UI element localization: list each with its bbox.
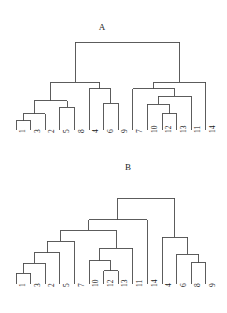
leaf-label-2: 2: [48, 129, 56, 133]
dendrogram-panel-a: A 1325846971012131114: [0, 0, 227, 156]
leaf-label-5: 5: [63, 129, 71, 133]
leaf-label-10: 10: [151, 126, 159, 134]
leaf-label-3: 3: [34, 129, 42, 133]
leaf-label-4: 4: [92, 129, 100, 133]
leaf-label-8: 8: [78, 129, 86, 133]
leaf-label-10: 10: [92, 280, 100, 288]
dendrogram-link: [75, 42, 179, 82]
dendrogram-link: [51, 82, 100, 100]
leaf-label-1: 1: [19, 283, 27, 287]
dendrogram-link: [60, 107, 75, 130]
leaf-label-7: 7: [136, 129, 144, 133]
leaf-label-13: 13: [180, 126, 188, 134]
leaf-label-9: 9: [121, 129, 129, 133]
dendrogram-link: [23, 114, 45, 131]
leaf-label-9: 9: [209, 283, 217, 287]
leaf-label-4: 4: [165, 283, 173, 287]
leaf-label-3: 3: [34, 283, 42, 287]
dendrogram-link: [162, 237, 188, 284]
panel-b-plot: [0, 156, 227, 313]
leaf-label-12: 12: [107, 280, 115, 288]
dendrogram-link: [118, 198, 175, 237]
dendrogram-panel-b: B 1325710121311144689: [0, 156, 227, 313]
dendrogram-link: [104, 103, 119, 130]
dendrogram-link: [89, 89, 111, 130]
leaf-label-6: 6: [180, 283, 188, 287]
leaf-label-14: 14: [151, 280, 159, 288]
leaf-label-5: 5: [63, 283, 71, 287]
dendrogram-link: [47, 241, 74, 284]
leaf-label-11: 11: [136, 280, 144, 287]
dendrogram-link: [177, 254, 199, 284]
leaf-label-13: 13: [121, 280, 129, 288]
leaf-label-1: 1: [19, 129, 27, 133]
leaf-label-8: 8: [194, 283, 202, 287]
dendrogram-link: [34, 253, 60, 284]
dendrogram-figure: A 1325846971012131114 B 1325710121311144…: [0, 0, 227, 313]
leaf-label-7: 7: [78, 283, 86, 287]
leaf-label-14: 14: [209, 126, 217, 134]
dendrogram-link: [191, 263, 206, 285]
leaf-label-2: 2: [48, 283, 56, 287]
leaf-label-11: 11: [194, 126, 202, 133]
dendrogram-link: [133, 89, 175, 130]
leaf-label-6: 6: [107, 129, 115, 133]
leaf-label-12: 12: [165, 126, 173, 134]
dendrogram-link: [61, 230, 117, 248]
